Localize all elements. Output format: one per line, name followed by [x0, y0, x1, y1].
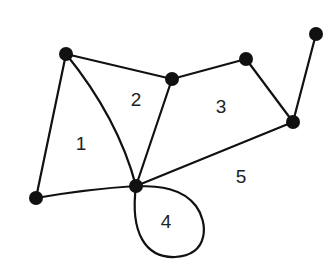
- face-label-4: 4: [161, 211, 172, 232]
- node-e: [286, 115, 300, 129]
- node-b: [165, 72, 179, 86]
- edge-b-c: [172, 59, 246, 79]
- edge-c-e: [246, 59, 293, 122]
- node-a: [59, 47, 73, 61]
- edge-a-f: [36, 54, 66, 198]
- edge-b-g: [136, 79, 172, 186]
- face-label-3: 3: [216, 96, 227, 117]
- face-label-2: 2: [131, 89, 142, 110]
- planar-graph-diagram: 1 2 3 4 5: [0, 0, 330, 270]
- edge-e-g: [136, 122, 293, 186]
- nodes: [29, 27, 323, 205]
- face-label-5: 5: [236, 166, 247, 187]
- node-d: [309, 27, 323, 41]
- edge-f-g: [36, 186, 136, 198]
- node-g: [129, 179, 143, 193]
- edge-d-e: [293, 34, 316, 122]
- face-label-1: 1: [76, 133, 87, 154]
- node-f: [29, 191, 43, 205]
- edge-a-g-curved: [66, 54, 136, 186]
- node-c: [239, 52, 253, 66]
